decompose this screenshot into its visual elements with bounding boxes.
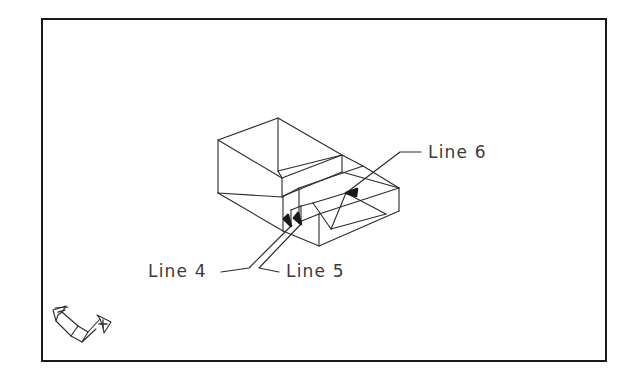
- page-background: [0, 0, 636, 379]
- callout-label-line-4: Line 4: [148, 261, 207, 281]
- figure-container: Line 4 Line 5 Line 6: [0, 0, 636, 379]
- callout-label-line-6: Line 6: [428, 142, 487, 162]
- callout-label-line-5: Line 5: [286, 261, 345, 281]
- technical-drawing: Line 4 Line 5 Line 6: [0, 0, 636, 379]
